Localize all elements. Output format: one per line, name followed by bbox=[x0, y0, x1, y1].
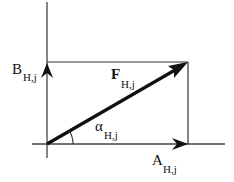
label-f: F bbox=[111, 66, 120, 82]
label-b: B bbox=[12, 61, 22, 77]
angle-arc bbox=[70, 131, 74, 144]
label-b-subscript: H,j bbox=[23, 71, 37, 83]
label-alpha-subscript: H,j bbox=[104, 129, 118, 141]
label-a-subscript: H,j bbox=[163, 163, 177, 175]
vector-diagram: B H,j F H,j α H,j A H,j bbox=[0, 0, 234, 182]
label-a: A bbox=[152, 152, 163, 168]
vector-f-arrowhead-icon bbox=[168, 62, 188, 78]
label-alpha: α bbox=[95, 118, 103, 134]
label-f-subscript: H,j bbox=[121, 78, 135, 90]
